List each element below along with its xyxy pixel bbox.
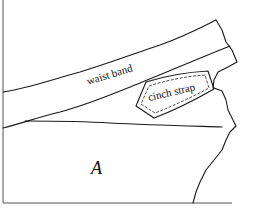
waistband-top-edge: [3, 20, 216, 92]
piece-right-edge: [193, 88, 236, 203]
cinch-strap-label: cinch strap: [147, 80, 197, 103]
waistband-bottom-edge: [3, 46, 230, 128]
frame-border: [3, 0, 232, 203]
pattern-diagram: waist band cinch strap A: [0, 0, 255, 210]
piece-a-label: A: [90, 158, 103, 178]
waistband-right-edge: [213, 20, 237, 88]
waistband-label: waist band: [85, 61, 134, 86]
seam-line: [25, 121, 222, 127]
